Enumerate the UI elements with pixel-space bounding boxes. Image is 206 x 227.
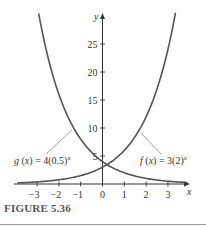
x-axis-label: x (186, 186, 192, 197)
x-tick-label: −2 (51, 189, 62, 200)
y-axis-label: y (93, 11, 99, 22)
y-tick-label: 20 (88, 67, 98, 78)
g-function-label: g (x) = 4(0.5)x (14, 154, 71, 167)
x-tick-label: −1 (72, 189, 83, 200)
y-tick-label: 10 (88, 123, 98, 134)
x-tick-label: 0 (100, 189, 105, 200)
exponential-functions-chart: x y −3−2−10123 510152025 g (x) = 4(0.5)x… (0, 0, 206, 200)
x-tick-label: −3 (29, 189, 40, 200)
f-callout-line (141, 133, 161, 154)
x-tick-label: 3 (165, 189, 170, 200)
figure-caption: FIGURE 5.36 (4, 202, 71, 214)
x-tick-label: 1 (122, 189, 127, 200)
bottom-rule (0, 224, 206, 225)
f-function-label: f (x) = 3(2)x (140, 154, 188, 167)
g-callout-line (46, 130, 72, 154)
y-tick-label: 25 (88, 39, 98, 50)
x-tick-label: 2 (144, 189, 149, 200)
y-tick-label: 15 (88, 95, 98, 106)
y-axis-arrow-icon (100, 13, 105, 19)
